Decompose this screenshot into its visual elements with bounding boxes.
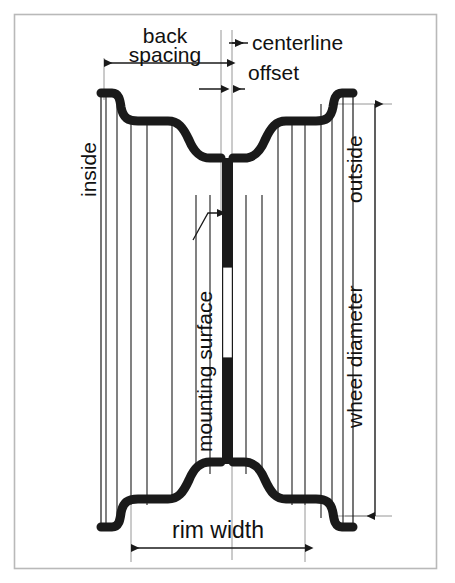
offset-label: offset	[248, 61, 299, 84]
hub-disc-web	[222, 158, 233, 464]
inside-label: inside	[77, 142, 100, 197]
wheel-diameter-label: wheel diameter	[343, 286, 366, 429]
rim-width-label: rim width	[172, 517, 264, 543]
diagram-canvas: back spacing centerline offset	[0, 0, 455, 583]
bolt-hole-gap	[223, 267, 233, 358]
centerline-label: centerline	[252, 31, 343, 54]
outside-label: outside	[343, 135, 366, 203]
wheel-cross-section-diagram: back spacing centerline offset	[0, 0, 455, 583]
back-spacing-label-line2: spacing	[129, 43, 201, 66]
mounting-surface-label: mounting surface	[193, 291, 216, 452]
